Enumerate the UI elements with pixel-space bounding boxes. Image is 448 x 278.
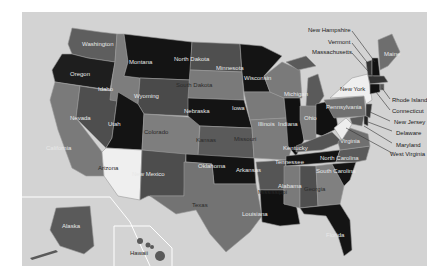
label-north-dakota: North Dakota — [174, 56, 210, 62]
label-nevada: Nevada — [70, 115, 91, 121]
callout-new-jersey: New Jersey — [394, 119, 425, 125]
label-indiana: Indiana — [278, 121, 298, 127]
state-delaware[interactable] — [364, 116, 368, 126]
label-arizona: Arizona — [98, 165, 119, 171]
state-alaska[interactable] — [50, 206, 94, 254]
label-alaska: Alaska — [62, 223, 81, 229]
label-maine: Maine — [384, 51, 401, 57]
label-louisiana: Louisiana — [242, 211, 268, 217]
callout-west-virginia: West Virginia — [390, 151, 426, 157]
callout-rhode-island: Rhode Island — [392, 97, 427, 103]
label-nebraska: Nebraska — [184, 108, 210, 114]
label-florida: Florida — [326, 232, 345, 238]
label-mississippi: Mississippi — [258, 189, 287, 195]
label-minnesota: Minnesota — [216, 65, 244, 71]
label-utah: Utah — [108, 121, 121, 127]
label-south-dakota: South Dakota — [176, 82, 213, 88]
label-michigan: Michigan — [284, 91, 308, 97]
label-alabama: Alabama — [278, 183, 302, 189]
label-idaho: Idaho — [98, 86, 114, 92]
callout-maryland: Maryland — [396, 142, 421, 148]
label-arkansas: Arkansas — [236, 167, 261, 173]
label-hawaii: Hawaii — [130, 250, 148, 256]
label-oklahoma: Oklahoma — [198, 163, 226, 169]
label-colorado: Colorado — [144, 129, 169, 135]
state-new-hampshire[interactable] — [372, 58, 380, 76]
label-georgia: Georgia — [304, 186, 326, 192]
state-alaska-chain — [30, 250, 58, 260]
label-south-carolina: South Carolina — [316, 168, 356, 174]
state-colorado[interactable] — [142, 114, 200, 156]
label-wyoming: Wyoming — [134, 93, 159, 99]
label-virginia: Virginia — [340, 138, 361, 144]
label-oregon: Oregon — [70, 71, 90, 77]
label-tennessee: Tennessee — [275, 159, 305, 165]
callout-massachusetts: Massachusetts — [312, 49, 352, 55]
state-maryland[interactable] — [350, 116, 364, 126]
label-ohio: Ohio — [304, 115, 317, 121]
state-new-jersey[interactable] — [366, 104, 372, 118]
label-north-carolina: North Carolina — [320, 155, 359, 161]
hawaii-inset-border — [114, 226, 172, 266]
label-missouri: Missouri — [234, 136, 256, 142]
state-florida[interactable] — [300, 204, 352, 256]
state-massachusetts[interactable] — [368, 76, 388, 84]
label-texas: Texas — [192, 202, 208, 208]
label-washington: Washington — [82, 41, 113, 47]
state-connecticut[interactable] — [370, 84, 380, 94]
label-new-york: New York — [340, 86, 366, 92]
label-kentucky: Kentucky — [283, 145, 308, 151]
callout-new-hampshire: New Hampshire — [308, 27, 351, 33]
label-pennsylvania: Pennsylvania — [326, 104, 362, 110]
label-illinois: Illinois — [258, 121, 275, 127]
callout-vermont: Vermont — [328, 39, 351, 45]
us-map-svg: Washington Oregon California Nevada Idah… — [22, 12, 427, 266]
label-montana: Montana — [129, 59, 153, 65]
label-iowa: Iowa — [232, 105, 245, 111]
label-california: California — [46, 145, 72, 151]
state-rhode-island[interactable] — [380, 84, 384, 90]
label-kansas: Kansas — [196, 137, 216, 143]
callout-connecticut: Connecticut — [392, 108, 424, 114]
label-wisconsin: Wisconsin — [244, 75, 271, 81]
callout-delaware: Delaware — [396, 130, 422, 136]
us-map: Washington Oregon California Nevada Idah… — [22, 12, 427, 266]
label-new-mexico: New Mexico — [132, 171, 165, 177]
